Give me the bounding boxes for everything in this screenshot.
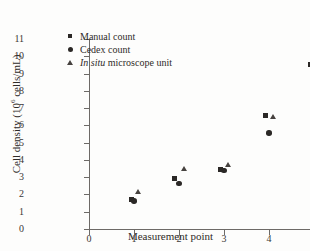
x-tick-label: 2: [169, 234, 189, 244]
y-tick: [84, 160, 89, 161]
y-tick-label: 3: [0, 172, 24, 182]
y-tick: [84, 108, 89, 109]
data-point-triangle: [181, 166, 187, 171]
circle-marker-icon: [64, 47, 76, 52]
y-tick-label: 1: [0, 207, 24, 217]
legend-label-in-situ-microscope-unit: In situ microscope unit: [80, 57, 172, 68]
y-tick: [84, 91, 89, 92]
y-tick-label: 8: [0, 86, 24, 96]
y-tick: [84, 194, 89, 195]
data-point-square: [263, 113, 268, 118]
legend-item-cedex-count: Cedex count: [64, 43, 172, 55]
x-tick-label: 3: [214, 234, 234, 244]
data-point-circle: [221, 168, 227, 174]
x-axis-line: [89, 229, 310, 230]
y-tick-label: 7: [0, 103, 24, 113]
legend-label-rest: microscope unit: [105, 57, 172, 68]
x-tick-label: 4: [259, 234, 279, 244]
y-tick-label: 11: [0, 34, 24, 44]
legend: Manual count Cedex count In situ microsc…: [64, 30, 172, 69]
y-tick-label: 2: [0, 189, 24, 199]
legend-label-manual-count: Manual count: [80, 31, 135, 42]
chart-figure: Cell density (106 cells/mL) Measurement …: [0, 0, 310, 251]
y-tick: [84, 74, 89, 75]
y-tick-label: 6: [0, 120, 24, 130]
data-point-square: [308, 62, 310, 67]
data-point-triangle: [270, 114, 276, 119]
x-tick-label: 1: [124, 234, 144, 244]
y-tick-label: 0: [0, 224, 24, 234]
legend-label-italic: In situ: [80, 57, 105, 68]
data-point-triangle: [135, 189, 141, 194]
y-tick-label: 10: [0, 51, 24, 61]
triangle-marker-icon: [64, 60, 76, 65]
y-tick: [84, 177, 89, 178]
data-point-circle: [266, 130, 272, 136]
y-tick: [84, 212, 89, 213]
x-tick-label: 0: [79, 234, 99, 244]
x-tick-label: 5: [304, 234, 310, 244]
data-point-circle: [131, 198, 137, 204]
y-tick: [84, 125, 89, 126]
legend-item-in-situ-microscope-unit: In situ microscope unit: [64, 56, 172, 68]
data-point-square: [172, 176, 177, 181]
y-tick: [84, 143, 89, 144]
data-point-triangle: [225, 162, 231, 167]
y-tick-label: 9: [0, 69, 24, 79]
data-point-circle: [176, 181, 182, 187]
y-tick-label: 4: [0, 155, 24, 165]
legend-item-manual-count: Manual count: [64, 30, 172, 42]
y-tick-label: 5: [0, 138, 24, 148]
square-marker-icon: [64, 34, 76, 39]
legend-label-cedex-count: Cedex count: [80, 44, 130, 55]
